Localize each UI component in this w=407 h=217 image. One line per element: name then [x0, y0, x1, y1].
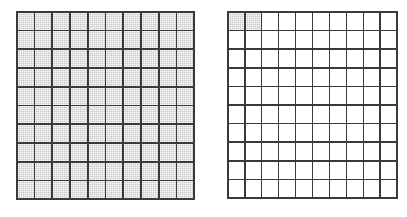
grid-cell-empty — [246, 69, 261, 86]
grid-cell-empty — [262, 50, 277, 67]
grid-cell-empty — [313, 69, 328, 86]
grid-cell-shaded — [177, 13, 193, 30]
grid-cell-empty — [246, 87, 261, 104]
grid-cell-shaded — [142, 125, 158, 142]
grid-cell-empty — [262, 69, 277, 86]
grid-cell-shaded — [160, 144, 176, 161]
grid-cell-shaded — [71, 106, 87, 123]
grid-cell-empty — [296, 50, 311, 67]
grid-cell-shaded — [35, 181, 51, 198]
grid-cell-shaded — [71, 69, 87, 86]
grid-cell-shaded — [18, 50, 34, 67]
grid-cell-empty — [330, 124, 345, 141]
grid-cell-shaded — [18, 31, 34, 48]
grid-cell-shaded — [18, 106, 34, 123]
grid-cell-shaded — [124, 181, 140, 198]
grid-cell-shaded — [124, 106, 140, 123]
grid-cell-shaded — [229, 13, 244, 30]
grid-cell-shaded — [160, 125, 176, 142]
grid-cell-shaded — [18, 125, 34, 142]
grid-cell-shaded — [71, 181, 87, 198]
grid-cell-shaded — [106, 181, 122, 198]
grid-cell-shaded — [160, 106, 176, 123]
grid-cell-empty — [296, 162, 311, 179]
grid-cell-empty — [296, 13, 311, 30]
grid-cell-empty — [229, 50, 244, 67]
grid-cell-empty — [246, 143, 261, 160]
grid-cell-empty — [364, 162, 379, 179]
grid-cell-shaded — [18, 88, 34, 105]
grid-cell-empty — [364, 31, 379, 48]
grid-cell-shaded — [160, 163, 176, 180]
grid-cell-empty — [313, 143, 328, 160]
grid-cell-shaded — [142, 106, 158, 123]
grid-cell-shaded — [177, 88, 193, 105]
grid-cell-empty — [381, 180, 396, 197]
grid-cell-shaded — [177, 50, 193, 67]
grid-cell-shaded — [71, 125, 87, 142]
grid-cell-empty — [381, 162, 396, 179]
grid-cell-empty — [347, 143, 362, 160]
grid-cell-empty — [279, 106, 294, 123]
grid-cell-empty — [229, 31, 244, 48]
grid-cell-empty — [347, 50, 362, 67]
grid-cell-empty — [313, 87, 328, 104]
grid-cell-empty — [347, 87, 362, 104]
grid-cell-empty — [330, 69, 345, 86]
grid-cell-empty — [279, 162, 294, 179]
grid-cell-empty — [279, 143, 294, 160]
grid-cell-empty — [347, 106, 362, 123]
grid-cell-empty — [296, 87, 311, 104]
grid-cell-empty — [296, 106, 311, 123]
grid-cell-shaded — [71, 31, 87, 48]
grid-cell-empty — [279, 87, 294, 104]
grid-cell-shaded — [53, 88, 69, 105]
grid-cell-empty — [279, 124, 294, 141]
grid-cell-empty — [381, 50, 396, 67]
grid-cell-empty — [330, 143, 345, 160]
grid-cell-shaded — [106, 13, 122, 30]
grid-cell-empty — [296, 143, 311, 160]
grid-cell-empty — [381, 87, 396, 104]
grid-cell-shaded — [89, 31, 105, 48]
grid-cell-shaded — [106, 144, 122, 161]
grid-cell-empty — [381, 106, 396, 123]
grid-cell-shaded — [53, 125, 69, 142]
grid-cell-empty — [381, 69, 396, 86]
grid-cell-empty — [229, 69, 244, 86]
grid-cell-empty — [381, 13, 396, 30]
grid-cell-shaded — [160, 181, 176, 198]
grid-cell-empty — [229, 143, 244, 160]
grid-cell-shaded — [89, 106, 105, 123]
grid-cell-empty — [296, 69, 311, 86]
grid-cell-empty — [347, 180, 362, 197]
grid-cell-shaded — [177, 163, 193, 180]
grid-cell-shaded — [18, 69, 34, 86]
grid-cell-shaded — [53, 50, 69, 67]
grid-cell-empty — [381, 31, 396, 48]
grid-cell-shaded — [124, 163, 140, 180]
grid-cell-empty — [347, 13, 362, 30]
grid-cell-empty — [330, 180, 345, 197]
grid-cell-empty — [381, 143, 396, 160]
grid-cell-shaded — [89, 125, 105, 142]
grid-cell-empty — [262, 87, 277, 104]
grid-cell-shaded — [124, 31, 140, 48]
grid-cell-shaded — [89, 163, 105, 180]
grid-cell-shaded — [106, 50, 122, 67]
grid-cell-shaded — [89, 50, 105, 67]
grid-cell-empty — [364, 180, 379, 197]
grid-cell-empty — [313, 31, 328, 48]
grid-cell-empty — [364, 143, 379, 160]
grid-cell-empty — [262, 162, 277, 179]
grid-cell-shaded — [160, 13, 176, 30]
grid-cell-empty — [262, 180, 277, 197]
grid-cell-empty — [313, 162, 328, 179]
hundred-grid-left — [16, 11, 195, 200]
grid-cell-shaded — [18, 163, 34, 180]
grid-cell-empty — [262, 124, 277, 141]
grid-cell-empty — [347, 162, 362, 179]
grid-cell-empty — [347, 69, 362, 86]
grid-cell-empty — [330, 106, 345, 123]
grid-cell-empty — [364, 124, 379, 141]
